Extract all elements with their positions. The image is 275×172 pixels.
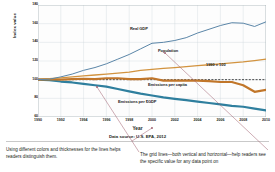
caption-left: Using different colors and thicknesses f… bbox=[6, 147, 132, 160]
x-tick-label: 2000 bbox=[148, 119, 156, 123]
x-tick-label: 2008 bbox=[239, 119, 247, 123]
x-tick-label: 2004 bbox=[194, 119, 202, 123]
series-label-population: Population bbox=[158, 49, 178, 53]
x-tick-label: 1998 bbox=[125, 119, 133, 123]
x-tick-label: 1992 bbox=[57, 119, 65, 123]
chart-page: 6080100120140160180 Index value Real GDP… bbox=[0, 0, 275, 172]
x-tick-label: 2002 bbox=[171, 119, 179, 123]
figure: 6080100120140160180 Index value Real GDP… bbox=[0, 0, 275, 136]
divider bbox=[6, 141, 269, 142]
y-axis-tick-labels: 6080100120140160180 bbox=[24, 0, 38, 122]
x-tick-label: 2010 bbox=[262, 119, 270, 123]
x-axis-title: Year bbox=[0, 126, 275, 131]
series-label-emissions-per-capita: Emissions per capita bbox=[148, 83, 187, 87]
series-label-real-gdp: Real GDP bbox=[130, 27, 148, 31]
x-tick-label: 1996 bbox=[102, 119, 110, 123]
x-tick-label: 1990 bbox=[34, 119, 42, 123]
reference-line-label: 1990 = 100 bbox=[206, 63, 226, 67]
y-axis-title: Index value bbox=[12, 0, 17, 38]
x-tick-label: 1994 bbox=[80, 119, 88, 123]
caption-right: The grid lines—both vertical and horizon… bbox=[140, 152, 273, 165]
series-label-emissions-per-gdp: Emissions per $GDP bbox=[118, 100, 156, 104]
plot-area: Real GDP Population Emissions per capita… bbox=[38, 5, 266, 117]
x-tick-label: 2006 bbox=[216, 119, 224, 123]
data-source-note: Data source: U.S. EPA, 2012 bbox=[0, 134, 275, 139]
